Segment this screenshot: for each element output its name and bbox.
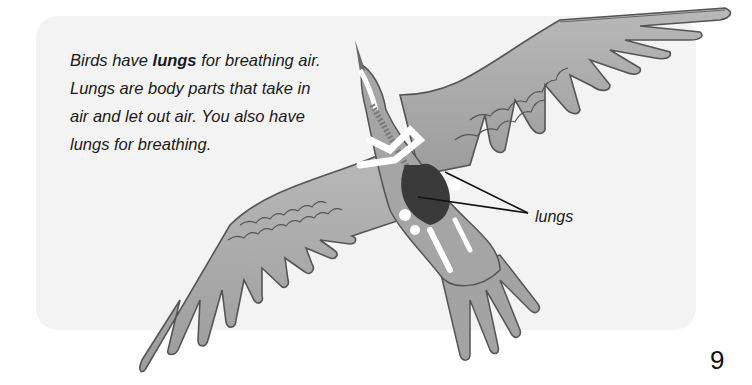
- bird-illustration: [0, 0, 752, 385]
- right-wing: [400, 8, 730, 175]
- left-wing: [140, 150, 400, 372]
- page-number: 9: [710, 345, 724, 376]
- beak-icon: [355, 40, 365, 72]
- lungs-label: lungs: [535, 208, 573, 226]
